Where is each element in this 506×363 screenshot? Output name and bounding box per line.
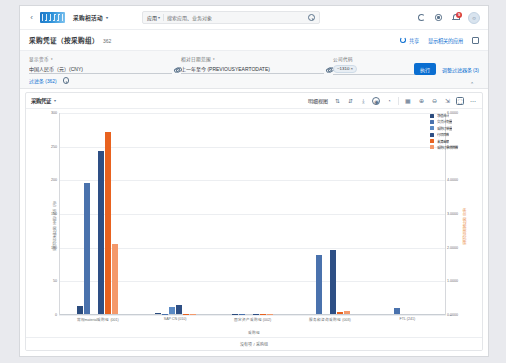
legend-label: 采购订单项目数: [437, 145, 458, 150]
x-axis-label: FTL (241): [369, 315, 446, 327]
bar[interactable]: [176, 305, 182, 314]
fullscreen-icon[interactable]: [472, 37, 479, 44]
legend-toggle-icon[interactable]: ⇲: [443, 97, 451, 105]
chevron-down-icon: ▾: [51, 57, 53, 61]
value-help-icon[interactable]: [174, 66, 181, 73]
bar[interactable]: [337, 312, 343, 314]
chevron-down-icon: ▾: [213, 57, 215, 61]
y-tick-label-left: 100: [51, 246, 57, 250]
chart-footer: 没有项 / 采购组: [26, 337, 482, 350]
filter-settings-icon[interactable]: [62, 77, 69, 84]
share-icon: [400, 37, 407, 44]
bar[interactable]: [77, 306, 83, 314]
legend-item[interactable]: 行项目数: [430, 132, 480, 137]
filter-token[interactable]: ~1310 ×: [333, 65, 357, 73]
bar[interactable]: [330, 250, 336, 314]
more-actions-icon[interactable]: ⋯: [469, 97, 477, 105]
refresh-icon[interactable]: [417, 13, 426, 22]
legend-item[interactable]: 采购订单项目数: [430, 145, 480, 150]
legend-item[interactable]: 采购订单量: [430, 126, 480, 131]
chart-plot-wrapper: 采购凭证净值之和（中国人民币（元）） 采购凭证项目数之和（比率） 0501001…: [26, 109, 482, 337]
page-title-text: 采购凭证（按采购组）: [29, 35, 99, 45]
y-tick-label-right: 2.0000: [447, 246, 458, 250]
x-axis-label: SAP CN (010): [136, 315, 213, 327]
bar[interactable]: [112, 244, 118, 314]
shell-search-box[interactable]: 应用 ▾ 搜索应用、业务对象: [142, 11, 320, 24]
measure-icon[interactable]: ◔: [385, 97, 393, 105]
search-icon[interactable]: [308, 14, 315, 21]
filter-display-currency-input[interactable]: 中国人民币（元）(CNY): [29, 65, 172, 75]
app-title[interactable]: 采购相活动 ▾: [73, 14, 108, 22]
axis-expand-icon[interactable]: ⌄: [449, 312, 452, 317]
filter-company-code-input[interactable]: ~1310 ×: [333, 65, 420, 76]
sap-logo[interactable]: [40, 12, 65, 23]
filter-bar: 显示货币 ▾ 中国人民币（元）(CNY) 过滤条 (362) 相对日期范围 ▾: [20, 50, 488, 89]
shell-bar: ‹ 采购相活动 ▾ 应用 ▾ 搜索应用、业务对象 9 ☺: [20, 6, 488, 30]
filter-display-currency: 显示货币 ▾ 中国人民币（元）(CNY) 过滤条 (362): [29, 56, 181, 84]
legend-swatch: [430, 145, 434, 149]
filter-display-currency-label[interactable]: 显示货币 ▾: [29, 56, 181, 62]
legend-label: 交货计划量: [437, 119, 452, 124]
legend-label: 采购订单量: [437, 126, 452, 131]
chart-grid: [59, 113, 446, 315]
sort-descending-icon[interactable]: ⇵: [346, 97, 354, 105]
page-title: 采购凭证（按采购组） 362: [29, 35, 111, 45]
filter-relative-date-range-row: 上一年至今 (PREVIOUSYEARTODATE): [181, 65, 333, 75]
y-tick-label-right: 1.0000: [447, 279, 458, 283]
legend-swatch: [430, 133, 434, 137]
bar-group: [291, 113, 368, 314]
filter-bar-actions: 执行 调整过滤器条 (3): [414, 63, 480, 75]
bar[interactable]: [394, 308, 400, 314]
share-action-button[interactable]: 共享: [400, 37, 420, 44]
chart-type-icon[interactable]: ◉: [372, 97, 380, 105]
search-scope-label: 应用: [147, 14, 157, 21]
adapt-filters-button[interactable]: 调整过滤器条 (3): [442, 66, 480, 73]
detail-view-label[interactable]: 明细视图: [308, 97, 328, 104]
bar[interactable]: [105, 132, 111, 314]
show-related-apps-button[interactable]: 显示相关的应用: [428, 37, 463, 44]
chevron-up-icon[interactable]: ⌃: [468, 81, 476, 87]
search-input[interactable]: 搜索应用、业务对象: [167, 14, 305, 21]
chart-view-selector[interactable]: 采购凭证 ▾: [31, 97, 56, 105]
value-help-icon[interactable]: [326, 66, 333, 73]
zoom-in-icon[interactable]: ⊕: [417, 97, 425, 105]
search-scope-selector[interactable]: 应用 ▾: [147, 14, 161, 21]
y-tick-label-right: 4.0000: [447, 178, 458, 182]
filter-relative-date-range-label[interactable]: 相对日期范围 ▾: [181, 56, 333, 62]
bar[interactable]: [316, 255, 322, 314]
chevron-down-icon: ▾: [106, 15, 108, 20]
bar[interactable]: [84, 183, 90, 314]
user-avatar[interactable]: ☺: [468, 12, 480, 24]
go-button[interactable]: 执行: [414, 63, 436, 75]
legend-item[interactable]: 净值合计: [430, 113, 480, 118]
sort-ascending-icon[interactable]: ⇅: [333, 97, 341, 105]
filter-company-code-label[interactable]: 公司代码: [333, 56, 429, 62]
toolbar-separator: [398, 97, 399, 105]
chart-bars: [59, 113, 446, 314]
filter-relative-date-range-input[interactable]: 上一年至今 (PREVIOUSYEARTODATE): [181, 65, 324, 75]
back-icon[interactable]: ‹: [26, 12, 37, 23]
legend-swatch: [430, 120, 434, 124]
fullscreen-toggle-icon[interactable]: ⛶: [456, 97, 464, 105]
more-filters-link[interactable]: 过滤条 (362): [29, 77, 57, 84]
x-axis-label: 常规material采购组 (001): [59, 315, 136, 327]
drill-down-icon[interactable]: ⤓: [359, 97, 367, 105]
y-tick-label-left: 250: [51, 145, 57, 149]
chart-view-label: 采购凭证: [31, 97, 51, 105]
chart-legend: 净值合计交货计划量采购订单量行项目数未清金额采购订单项目数: [430, 113, 480, 150]
page-title-bar: 采购凭证（按采购组） 362 共享 显示相关的应用: [20, 30, 488, 50]
dimension-icon[interactable]: ▦: [404, 97, 412, 105]
gear-icon[interactable]: [434, 13, 443, 22]
y-tick-label-right: 3.0000: [447, 212, 458, 216]
y-tick-label-left: 50: [53, 279, 57, 283]
legend-item[interactable]: 未清金额: [430, 139, 480, 144]
bar[interactable]: [169, 307, 175, 314]
notifications-bell-icon[interactable]: 9: [451, 13, 460, 22]
bar[interactable]: [344, 311, 350, 314]
legend-label: 未清金额: [437, 139, 449, 144]
bar[interactable]: [155, 313, 161, 314]
zoom-out-icon[interactable]: ⊖: [430, 97, 438, 105]
chevron-down-icon: ▾: [158, 16, 160, 20]
bar[interactable]: [98, 151, 104, 314]
legend-item[interactable]: 交货计划量: [430, 119, 480, 124]
